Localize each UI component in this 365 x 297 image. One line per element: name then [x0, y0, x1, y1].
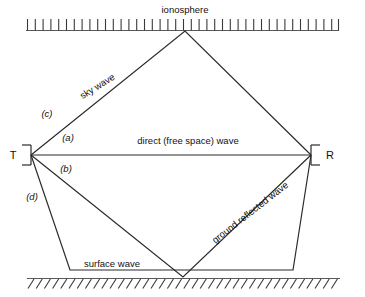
- label-ground-reflected-wave: ground reflected wave: [210, 179, 290, 245]
- label-sky-wave: sky wave: [78, 71, 117, 101]
- wave-propagation-diagram: ionosphere: [0, 0, 365, 297]
- ray-path-surface-wave: [31, 155, 311, 270]
- receiver-node[interactable]: R: [311, 145, 334, 165]
- receiver-label: R: [326, 149, 334, 161]
- ground-hatching: [28, 279, 337, 289]
- transmitter-node[interactable]: T: [10, 145, 31, 165]
- ground-boundary: [27, 279, 340, 289]
- receiver-bracket-icon: [311, 145, 320, 165]
- ray-path-ground-reflected-wave: [31, 155, 311, 277]
- key-label-a: (a): [62, 132, 74, 143]
- ionosphere-hatching: [28, 19, 339, 31]
- ionosphere-label: ionosphere: [161, 4, 208, 15]
- label-direct-wave: direct (free space) wave: [137, 135, 238, 146]
- transmitter-bracket-icon: [22, 145, 31, 165]
- label-surface-wave: surface wave: [84, 258, 140, 269]
- key-label-c: (c): [41, 108, 52, 119]
- diagram-canvas: ionosphere: [0, 0, 365, 297]
- ionosphere-boundary: ionosphere: [26, 4, 339, 31]
- key-label-b: (b): [60, 163, 72, 174]
- key-label-d: (d): [26, 191, 38, 202]
- transmitter-label: T: [10, 149, 17, 161]
